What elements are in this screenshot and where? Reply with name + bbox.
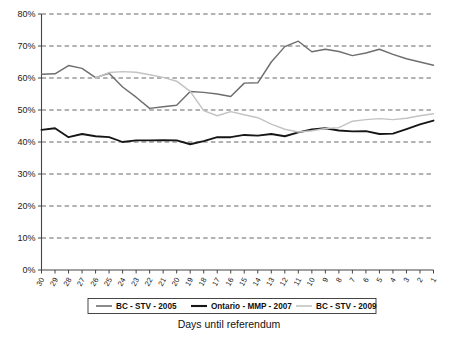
x-axis-title: Days until referendum [178, 318, 281, 330]
x-tick-label: 23 [129, 276, 141, 288]
series-line-0 [42, 41, 434, 108]
x-tick-label: 5 [374, 276, 384, 284]
y-tick-label: 0% [22, 265, 35, 275]
y-tick-label: 50% [17, 105, 35, 115]
x-tick-label: 10 [305, 276, 317, 288]
chart-container: 0%10%20%30%40%50%60%70%80%30292827262524… [0, 0, 449, 338]
x-tick-label: 27 [75, 276, 87, 288]
x-tick-label: 1 [429, 276, 439, 284]
x-tick-label: 11 [292, 276, 304, 287]
x-tick-label: 16 [224, 276, 236, 288]
x-tick-label: 26 [89, 276, 101, 288]
x-tick-label: 14 [251, 276, 263, 288]
x-tick-label: 12 [278, 276, 290, 288]
legend-label-0[interactable]: BC - STV - 2005 [116, 302, 177, 311]
x-tick-label: 17 [210, 276, 222, 288]
x-tick-label: 20 [170, 276, 182, 288]
y-tick-label: 10% [17, 233, 35, 243]
series-line-1 [42, 121, 434, 145]
x-tick-label: 7 [347, 276, 357, 284]
legend-label-1[interactable]: Ontario - MMP - 2007 [211, 302, 292, 311]
x-tick-label: 22 [143, 276, 155, 288]
x-tick-label: 19 [183, 276, 195, 288]
x-tick-label: 15 [237, 276, 249, 288]
x-tick-label: 29 [48, 276, 60, 288]
y-tick-label: 80% [17, 9, 35, 19]
x-tick-label: 4 [388, 276, 398, 284]
x-tick-label: 9 [320, 276, 330, 284]
x-tick-label: 25 [102, 276, 114, 288]
x-tick-label: 18 [197, 276, 209, 288]
x-tick-label: 2 [415, 276, 425, 284]
x-tick-label: 30 [34, 276, 46, 288]
x-tick-label: 21 [156, 276, 168, 288]
legend-label-2[interactable]: BC - STV - 2009 [316, 302, 377, 311]
x-tick-label: 6 [361, 276, 371, 284]
x-tick-label: 24 [116, 276, 128, 288]
line-chart: 0%10%20%30%40%50%60%70%80%30292827262524… [0, 0, 449, 338]
y-tick-label: 30% [17, 169, 35, 179]
x-tick-label: 8 [334, 276, 344, 284]
y-axis-ticks: 0%10%20%30%40%50%60%70%80% [17, 9, 41, 275]
series-line-2 [96, 72, 434, 132]
y-tick-label: 40% [17, 137, 35, 147]
x-axis-ticks: 3029282726252423222120191817161514131211… [34, 270, 438, 288]
gridlines [42, 14, 434, 238]
y-tick-label: 70% [17, 41, 35, 51]
legend: BC - STV - 2005Ontario - MMP - 2007BC - … [88, 299, 377, 314]
x-tick-label: 28 [62, 276, 74, 288]
x-tick-label: 13 [264, 276, 276, 288]
y-tick-label: 20% [17, 201, 35, 211]
x-tick-label: 3 [402, 276, 412, 284]
series-group [42, 41, 434, 144]
y-tick-label: 60% [17, 73, 35, 83]
